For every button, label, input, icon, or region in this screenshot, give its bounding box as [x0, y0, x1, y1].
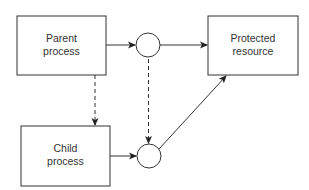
parent-label-line1: Parent [46, 32, 77, 44]
parent-process-node: Parent process [17, 16, 106, 75]
child-label-line1: Child [54, 142, 78, 154]
child-label-line2: process [47, 155, 84, 167]
resource-label-line2: resource [233, 45, 274, 57]
protected-resource-node: Protected resource [208, 16, 298, 75]
parent-label-line2: process [43, 45, 80, 57]
process-diagram: Parent process Protected resource Child … [0, 0, 309, 190]
top-check-circle [136, 33, 160, 57]
resource-label-line1: Protected [231, 32, 276, 44]
bottom-check-circle [137, 144, 161, 168]
child-process-node: Child process [21, 126, 110, 186]
bottom-circle-to-resource-arrow [159, 76, 226, 149]
